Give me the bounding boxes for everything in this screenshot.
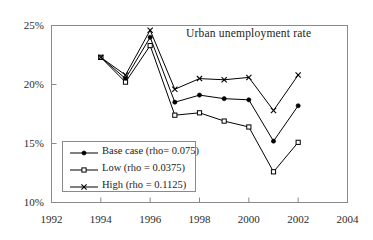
legend-sample-svg — [69, 181, 99, 193]
legend-marker-high — [69, 179, 99, 191]
chart-legend: Base case (rho= 0.075) Low (rho = 0.0375… — [62, 141, 196, 192]
legend-item: High (rho = 0.1125) — [63, 176, 195, 193]
x-axis-tick-label: 2000 — [227, 214, 271, 225]
legend-marker-base-case — [69, 145, 99, 157]
legend-label-high: High (rho = 0.1125) — [102, 179, 186, 191]
legend-item: Base case (rho= 0.075) — [63, 142, 195, 159]
legend-sample-svg — [69, 164, 99, 176]
legend-label-low: Low (rho = 0.0375) — [102, 162, 185, 174]
x-axis-tick-label: 1996 — [128, 214, 172, 225]
legend-marker-low — [69, 162, 99, 174]
legend-sample-svg — [69, 147, 99, 159]
y-axis-tick-label: 25% — [10, 20, 44, 31]
x-axis-tick-label: 1994 — [79, 214, 123, 225]
y-axis-ticks — [52, 26, 57, 203]
x-axis-tick-label: 2004 — [326, 214, 370, 225]
legend-label-base-case: Base case (rho= 0.075) — [102, 145, 199, 157]
x-axis-ticks — [52, 198, 348, 203]
x-axis-tick-label: 1998 — [178, 214, 222, 225]
x-axis-tick-label: 1992 — [30, 214, 74, 225]
chart-title: Urban unemployment rate — [186, 27, 311, 40]
y-axis-tick-label: 10% — [10, 197, 44, 208]
legend-item: Low (rho = 0.0375) — [63, 159, 195, 176]
y-axis-tick-label: 20% — [10, 79, 44, 90]
y-axis-tick-label: 15% — [10, 138, 44, 149]
unemployment-rate-chart: 10%15%20%25% 199219941996199820002002200… — [0, 0, 373, 240]
x-axis-tick-label: 2002 — [276, 214, 320, 225]
